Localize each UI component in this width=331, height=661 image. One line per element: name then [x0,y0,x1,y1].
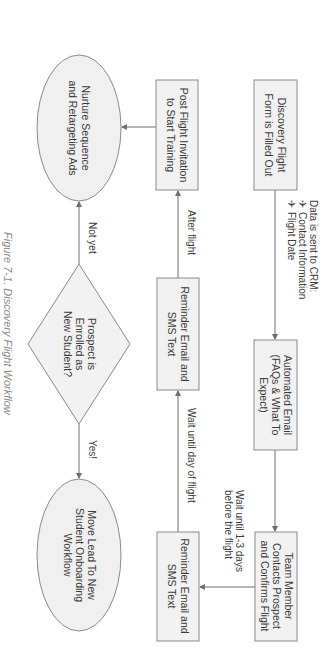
svg-text:Discovery Flight: Discovery Flight [276,98,288,173]
svg-text:Not yet: Not yet [87,222,98,254]
svg-text:SMS Text: SMS Text [166,312,178,357]
svg-text:Nurture Sequence: Nurture Sequence [80,85,92,170]
svg-text:SMS Text: SMS Text [166,564,178,609]
label-not-yet: Not yet [87,222,98,254]
svg-text:before the flight: before the flight [223,490,234,559]
svg-text:Reminder Email and: Reminder Email and [179,538,191,633]
svg-text:Expect): Expect) [258,377,270,413]
svg-text:to Start Training: to Start Training [165,98,177,172]
svg-text:Move Lead To New: Move Lead To New [86,510,98,600]
plane-bullet-icon: ✈ [297,200,308,208]
svg-text:and Retargeting Ads: and Retargeting Ads [67,80,79,175]
svg-text:New Student?: New Student? [62,311,74,377]
svg-text:Flight Date: Flight Date [286,212,297,261]
text-nurture: Nurture Sequence and Retargeting Ads [67,80,92,175]
svg-text:(FAQs & What To: (FAQs & What To [270,355,282,436]
svg-text:Automated Email: Automated Email [282,355,294,435]
label-after-flight: After flight [186,210,197,255]
svg-text:Figure 7-1. Discovery Flight W: Figure 7-1. Discovery Flight Workflow [2,232,14,416]
label-wait-1-3-days: Wait until 1-3 days before the flight [223,490,245,572]
svg-text:Post Flight Invitation: Post Flight Invitation [178,88,190,183]
text-decision: Prospect is Enrolled as New Student? [62,311,98,377]
svg-text:Student Onboarding: Student Onboarding [74,508,86,602]
svg-text:Form is Filled Out: Form is Filled Out [263,94,275,177]
svg-text:Workflow: Workflow [62,534,74,577]
svg-text:After flight: After flight [186,210,197,255]
text-discovery-form: Discovery Flight Form is Filled Out [263,94,288,177]
text-team-member: Team Member Contacts Prospect and Confir… [259,540,295,631]
svg-text:and Confirms Flight: and Confirms Flight [259,540,271,631]
flowchart: Discovery Flight Form is Filled Out Auto… [0,0,331,661]
svg-text:Contacts Prospect: Contacts Prospect [271,543,283,629]
figure-caption: Figure 7-1. Discovery Flight Workflow [2,232,14,416]
text-post-flight: Post Flight Invitation to Start Training [165,88,190,183]
svg-text:Yes!: Yes! [87,440,98,459]
svg-text:Prospect is: Prospect is [86,318,98,370]
svg-text:Team Member: Team Member [283,552,295,620]
svg-text:Reminder Email and: Reminder Email and [179,286,191,381]
svg-text:Enrolled as: Enrolled as [74,318,86,371]
svg-text:Contact Information: Contact Information [297,212,308,299]
plane-bullet-icon: ✈ [286,200,297,208]
crm-note: Data is sent to CRM: ✈ Contact Informati… [286,200,319,299]
svg-text:Wait until day of flight: Wait until day of flight [186,408,197,503]
label-yes: Yes! [87,440,98,459]
svg-text:Wait until 1-3 days: Wait until 1-3 days [234,490,245,572]
svg-text:Data is sent to CRM:: Data is sent to CRM: [308,200,319,292]
label-wait-day-of-flight: Wait until day of flight [186,408,197,503]
